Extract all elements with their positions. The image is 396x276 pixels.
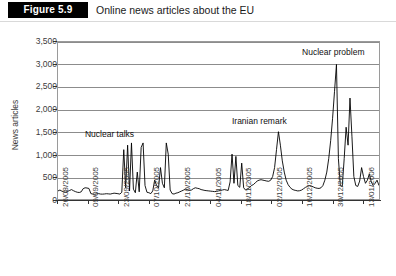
y-tick-label-2500: 2,500 <box>5 81 57 91</box>
x-tick-mark-5 <box>210 200 211 204</box>
figure-container: Figure 5.9 Online news articles about th… <box>0 0 396 276</box>
x-tick-label-8: 16/12/2005 <box>305 167 314 207</box>
x-tick-label-9: 30/12/2005 <box>336 167 345 207</box>
x-tick-mark-7 <box>271 200 272 204</box>
x-tick-mark-8 <box>302 200 303 204</box>
y-tick-label-2000: 2,000 <box>5 104 57 114</box>
y-tick-label-500: 500 <box>5 172 57 182</box>
x-tick-label-2: 23/09/2005 <box>122 167 131 207</box>
x-tick-label-5: 04/11/2005 <box>214 168 223 207</box>
x-axis: 26/08/200509/09/200523/09/200507/10/2005… <box>0 200 396 276</box>
x-tick-label-6: 18/11/2005 <box>244 168 253 207</box>
annotation-iranian-remark: Iranian remark <box>232 116 287 126</box>
x-tick-label-10: 13/01/2006 <box>367 167 376 207</box>
header-divider <box>0 21 396 22</box>
x-tick-label-1: 09/09/2005 <box>91 167 100 207</box>
figure-title: Online news articles about the EU <box>96 2 254 18</box>
x-tick-label-3: 07/10/2005 <box>152 167 161 207</box>
x-tick-mark-2 <box>118 200 119 204</box>
y-tick-label-3000: 3,000 <box>5 59 57 69</box>
annotation-nuclear-talks: Nuclear talks <box>85 129 134 139</box>
x-tick-mark-6 <box>241 200 242 204</box>
x-tick-mark-9 <box>333 200 334 204</box>
annotation-nuclear-problem: Nuclear problem <box>302 47 364 57</box>
x-tick-mark-10 <box>363 200 364 204</box>
figure-header: Figure 5.9 Online news articles about th… <box>0 0 396 22</box>
x-tick-mark-4 <box>179 200 180 204</box>
x-tick-label-4: 21/10/2005 <box>183 167 192 207</box>
x-tick-mark-0 <box>57 200 58 204</box>
x-tick-label-0: 26/08/2005 <box>61 167 70 207</box>
y-tick-label-1000: 1,000 <box>5 150 57 160</box>
y-tick-label-3500: 3,500 <box>5 36 57 46</box>
x-tick-mark-3 <box>149 200 150 204</box>
x-tick-label-7: 02/12/2005 <box>275 167 284 207</box>
y-tick-label-1500: 1,500 <box>5 127 57 137</box>
x-tick-mark-1 <box>88 200 89 204</box>
